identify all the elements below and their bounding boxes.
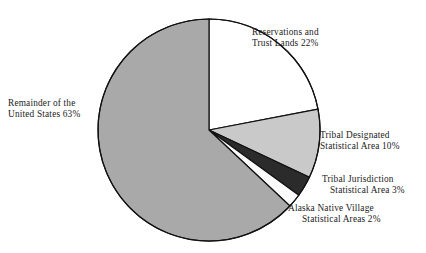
slice-label-line-2: United States 63% [8,109,80,120]
slice-label-line-1: Reservations and [252,27,319,38]
slice-label-line-2: Statistical Area 10% [320,141,400,152]
slice-label-tribal-designated-statistical-area: Tribal Designated Statistical Area 10% [320,130,400,153]
slice-label-line-2: Statistical Area 3% [322,185,405,196]
slice-label-line-1: Alaska Native Village [288,203,381,214]
slice-label-remainder-of-the-united-states: Remainder of the United States 63% [8,98,80,121]
slice-label-line-2: Statistical Areas 2% [288,214,381,225]
slice-label-tribal-jurisdiction-statistical-area: Tribal Jurisdiction Statistical Area 3% [322,174,405,197]
slice-label-line-1: Tribal Designated [320,130,400,141]
slice-label-reservations-and-trust-lands: Reservations and Trust Lands 22% [252,27,319,50]
slice-label-line-2: Trust Lands 22% [252,38,319,49]
slice-label-alaska-native-village-statistical-areas: Alaska Native Village Statistical Areas … [288,203,381,226]
pie-slice-group [98,19,320,241]
pie-chart-figure: Reservations and Trust Lands 22% Tribal … [0,0,426,253]
slice-label-line-1: Remainder of the [8,98,80,109]
slice-label-line-1: Tribal Jurisdiction [322,174,405,185]
